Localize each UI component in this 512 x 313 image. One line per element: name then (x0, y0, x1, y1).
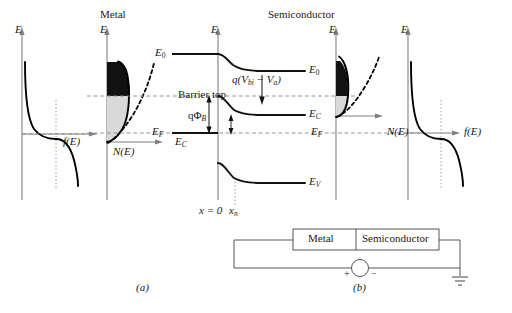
origin-label: x = 0 (199, 205, 222, 216)
voltage-source-symbol (352, 260, 369, 277)
vacuum-level-label-metal: E0 (155, 47, 165, 59)
vacuum-level-subscript-2: 0 (316, 68, 320, 77)
vacuum-level-semiconductor-bending (218, 54, 305, 71)
conduction-fermi-offset-arrow-down (229, 128, 234, 135)
fermi-level-symbol: E (152, 125, 159, 137)
fermi-level-label-semiconductor: EF (311, 126, 322, 138)
conduction-band-symbol: E (175, 135, 182, 147)
conduction-band-subscript: C (182, 140, 187, 149)
vacuum-level-subscript: 0 (162, 51, 166, 60)
dos-axis-label-semiconductor: N(E) (387, 126, 408, 137)
built-in-potential-open: q(V (232, 73, 248, 85)
built-in-potential-mid: − V (254, 73, 274, 85)
barrier-height-symbol: qΦ (188, 109, 202, 121)
energy-axis-label-semiconductor-dos: E (329, 24, 336, 35)
built-in-potential-arrowhead (259, 97, 264, 106)
circuit-metal-label: Metal (308, 233, 334, 244)
source-positive-terminal: + (344, 269, 350, 279)
depletion-edge-subscript: n (234, 209, 238, 218)
barrier-top-label: Barrier top (178, 89, 226, 100)
occupancy-axis-label-right: f(E) (464, 126, 481, 137)
vacuum-level-symbol-2: E (309, 63, 316, 75)
valence-band-subscript: V (316, 180, 321, 189)
panel-semiconductor-fermi-function (390, 27, 463, 200)
vacuum-level-label-semiconductor: E0 (309, 64, 319, 76)
conduction-band-label-semiconductor: EC (309, 108, 321, 120)
vacuum-level-symbol: E (155, 46, 162, 58)
metal-fermi-dirac-curve (25, 62, 78, 186)
valence-band-edge-curve (218, 163, 305, 183)
fermi-level-symbol-2: E (311, 125, 318, 137)
energy-axis-label-metal-fermi: E (15, 24, 22, 35)
fermi-level-subscript: F (159, 130, 164, 139)
energy-axis-label-semiconductor-fermi: E (401, 24, 408, 35)
barrier-height-subscript: B (202, 114, 207, 123)
source-negative-terminal: − (371, 269, 377, 279)
panel-metal-fermi-function (19, 27, 97, 200)
fermi-level-subscript-2: F (318, 130, 323, 139)
conduction-band-subscript-2: C (316, 112, 321, 121)
semiconductor-dos-axis-arrow (375, 113, 383, 118)
circuit-semiconductor-label: Semiconductor (362, 233, 429, 244)
valence-band-label: EV (309, 176, 320, 188)
conduction-fermi-offset-arrow-up (229, 114, 234, 121)
energy-axis-label-band-diagram: E (211, 24, 218, 35)
occupancy-axis-label-left: f(E) (63, 136, 80, 147)
built-in-potential-close: ) (277, 73, 281, 85)
figure-vector-canvas (0, 0, 512, 313)
depletion-edge-label: xn (229, 205, 238, 217)
panel-semiconductor-density-of-states (333, 27, 383, 200)
caption-b: (b) (353, 281, 366, 293)
dos-axis-label-metal: N(E) (113, 146, 134, 157)
valence-band-symbol: E (309, 175, 316, 187)
metal-dos-axis-arrow (155, 139, 163, 144)
conduction-band-label-metal-side: EC (175, 136, 187, 148)
caption-a: (a) (136, 281, 149, 293)
semiconductor-fermi-dirac-curve (411, 62, 463, 186)
conduction-band-symbol-2: E (309, 107, 316, 119)
figure-schottky-barrier-band-diagram: Metal Semiconductor E E E E E f(E) N(E) … (0, 0, 512, 313)
reference-dashed-lines (22, 96, 420, 134)
built-in-potential-label: q(Vbi − Va) (232, 74, 281, 86)
metal-occupied-states-fill-dark (107, 62, 130, 96)
panel-title-metal: Metal (100, 8, 126, 20)
circuit-schematic (234, 229, 468, 285)
fermi-level-label-metal: EF (152, 126, 163, 138)
semiconductor-fermi-occupancy-axis-arrow (452, 130, 460, 135)
energy-axis-label-metal-dos: E (100, 24, 107, 35)
panel-title-semiconductor: Semiconductor (268, 8, 335, 20)
barrier-height-label: qΦB (188, 110, 206, 122)
